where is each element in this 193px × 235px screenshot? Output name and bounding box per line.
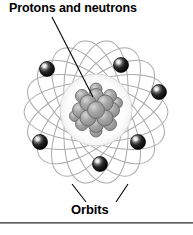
electron-right <box>152 85 167 100</box>
atom-illustration <box>0 0 193 235</box>
electron-lower-left <box>33 135 48 150</box>
electron-lower-right <box>131 135 146 150</box>
protons-and-neutrons-label: Protons and neutrons <box>9 2 137 15</box>
atom-diagram-figure: Protons and neutrons Orbits <box>0 0 193 235</box>
leader-line-orbits-left <box>72 184 86 202</box>
electron-upper-right <box>114 58 129 73</box>
electron-upper-left <box>40 62 55 77</box>
electron-bottom <box>93 157 108 172</box>
bottom-divider <box>0 222 193 224</box>
orbits-label: Orbits <box>71 203 109 216</box>
nucleus-particle <box>88 102 105 119</box>
leader-line-orbits-right <box>116 184 128 202</box>
nucleus-cluster <box>70 83 123 137</box>
